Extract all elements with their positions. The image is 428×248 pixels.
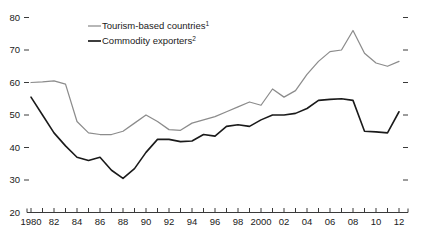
line-chart: 20304050607080 1980828486889092949698200… (0, 0, 428, 248)
y-tick-label-60: 60 (9, 77, 20, 88)
x-tick-label-94: 94 (187, 216, 198, 227)
y-tick-label-50: 50 (9, 109, 20, 120)
x-tick-label-1980: 1980 (20, 216, 41, 227)
y-tick-label-80: 80 (9, 12, 20, 23)
x-tick-label-88: 88 (118, 216, 129, 227)
x-axis-ticks (31, 208, 399, 213)
x-tick-label-90: 90 (141, 216, 152, 227)
x-tick-label-92: 92 (164, 216, 175, 227)
x-tick-label-2000: 2000 (250, 216, 271, 227)
x-axis (27, 209, 408, 213)
y-tick-label-40: 40 (9, 142, 20, 153)
y-tick-label-30: 30 (9, 174, 20, 185)
x-tick-label-98: 98 (233, 216, 244, 227)
legend-label-2: Commodity exporters2 (102, 35, 196, 47)
y-axis-labels: 20304050607080 (9, 12, 20, 218)
x-tick-label-10: 10 (371, 216, 382, 227)
y-axis-ticks-left (24, 18, 29, 181)
x-tick-label-96: 96 (210, 216, 221, 227)
x-tick-label-86: 86 (95, 216, 106, 227)
x-tick-label-12: 12 (394, 216, 405, 227)
series-line-tourism-based-countries (31, 31, 399, 135)
legend-label-footnote: 1 (206, 20, 210, 27)
x-tick-label-02: 02 (279, 216, 290, 227)
legend-label-text: Commodity exporters (102, 35, 193, 46)
x-tick-label-84: 84 (72, 216, 83, 227)
y-tick-label-70: 70 (9, 44, 20, 55)
x-axis-labels: 19808284868890929496982000020406081012 (20, 216, 404, 227)
x-tick-label-82: 82 (49, 216, 60, 227)
series-line-commodity-exporters (31, 97, 399, 178)
legend-label-1: Tourism-based countries1 (102, 20, 210, 32)
y-axis-ticks-right (403, 18, 408, 181)
x-tick-label-06: 06 (325, 216, 336, 227)
y-tick-label-20: 20 (9, 207, 20, 218)
x-tick-label-04: 04 (302, 216, 313, 227)
legend-label-text: Tourism-based countries (102, 20, 206, 31)
legend-label-footnote: 2 (192, 35, 196, 42)
series-lines (31, 31, 399, 179)
chart-container: 20304050607080 1980828486889092949698200… (0, 0, 428, 248)
chart-legend: Tourism-based countries1Commodity export… (88, 20, 210, 47)
x-tick-label-08: 08 (348, 216, 359, 227)
